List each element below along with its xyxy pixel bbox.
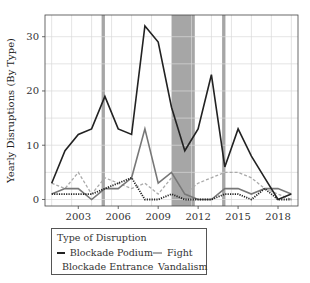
x-tick-label: 2018: [265, 211, 290, 222]
y-axis: 0102030: [26, 31, 45, 205]
shaded-period: [222, 15, 225, 206]
x-tick-label: 2003: [66, 211, 91, 222]
legend: Type of Disruption Blockade Podium Fight…: [51, 228, 207, 275]
legend-item-vandalism: Vandalism: [153, 260, 203, 273]
y-axis-title: Yearly Disruptions (By Type): [5, 38, 16, 184]
legend-item-blockade-entrance: Blockade Entrance: [57, 260, 153, 273]
x-tick-label: 2006: [106, 211, 131, 222]
x-tick-label: 2015: [225, 211, 250, 222]
legend-label: Blockade Entrance: [62, 260, 153, 273]
legend-label: Vandalism: [158, 260, 207, 273]
y-tick-label: 10: [26, 140, 39, 151]
legend-key-dashed-light: [153, 252, 162, 254]
legend-label: Blockade Podium: [70, 246, 153, 259]
y-tick-label: 20: [26, 85, 39, 96]
legend-item-fight: Fight: [153, 246, 203, 259]
legend-item-blockade-podium: Blockade Podium: [57, 246, 153, 259]
x-tick-label: 2009: [145, 211, 170, 222]
y-tick-label: 0: [33, 194, 39, 205]
x-tick-label: 2012: [185, 211, 210, 222]
gridlines: [45, 15, 298, 206]
y-tick-label: 30: [26, 31, 39, 42]
shaded-period: [102, 15, 105, 206]
legend-label: Fight: [167, 246, 193, 259]
x-axis: 200320062009201220152018: [66, 206, 291, 222]
shaded-periods: [102, 15, 226, 206]
legend-key-solid-dark: [57, 252, 65, 254]
legend-title: Type of Disruption: [57, 231, 201, 244]
